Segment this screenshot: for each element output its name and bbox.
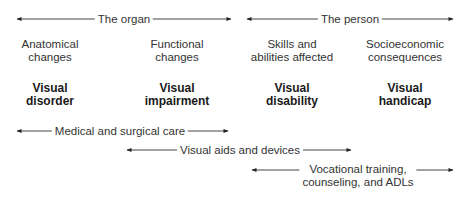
term-visual-disability: Visual disability [266, 82, 318, 108]
stage-description: Functional [150, 38, 203, 51]
stage-visual-handicap: Socioeconomic consequences [366, 38, 444, 64]
stage-description: Socioeconomic [366, 38, 444, 51]
stage-visual-disorder: Anatomical changes [22, 38, 79, 64]
stage-description: Skills and [251, 38, 333, 51]
stage-visual-disability: Skills and abilities affected [251, 38, 333, 64]
stage-term: disorder [26, 95, 74, 108]
stage-description: abilities affected [251, 51, 333, 64]
stage-description: changes [150, 51, 203, 64]
stage-description: consequences [366, 51, 444, 64]
medical-care-label: Medical and surgical care [52, 125, 188, 138]
vocational-label-line: counseling, and ADLs [299, 176, 416, 189]
term-visual-handicap: Visual handicap [379, 82, 432, 108]
vocational-label: Vocational training, counseling, and ADL… [299, 163, 416, 189]
stage-visual-impairment: Functional changes [150, 38, 203, 64]
stage-description: changes [22, 51, 79, 64]
organ-label: The organ [95, 13, 153, 26]
term-visual-impairment: Visual impairment [145, 82, 210, 108]
person-label: The person [318, 13, 382, 26]
stage-term: handicap [379, 95, 432, 108]
stage-description: Anatomical [22, 38, 79, 51]
visual-aids-label: Visual aids and devices [177, 144, 303, 157]
stage-term: disability [266, 95, 318, 108]
term-visual-disorder: Visual disorder [26, 82, 74, 108]
vocational-label-line: Vocational training, [299, 163, 416, 176]
stage-term: impairment [145, 95, 210, 108]
vision-loss-model-diagram: The organ The person Anatomical changes … [0, 0, 467, 198]
